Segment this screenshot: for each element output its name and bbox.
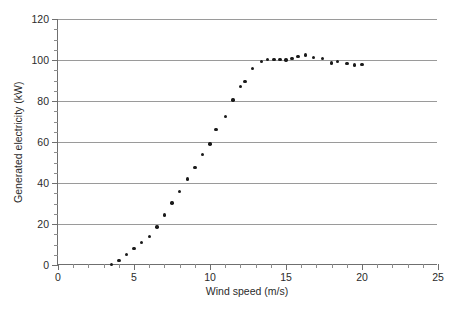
y-minor-tick bbox=[54, 132, 58, 133]
x-minor-tick bbox=[256, 264, 257, 268]
y-minor-tick bbox=[54, 70, 58, 71]
y-minor-tick bbox=[54, 234, 58, 235]
data-point bbox=[110, 263, 113, 266]
y-minor-tick bbox=[54, 163, 58, 164]
data-point bbox=[360, 63, 363, 66]
data-point bbox=[239, 85, 242, 88]
data-point bbox=[201, 153, 204, 156]
y-minor-tick bbox=[54, 173, 58, 174]
data-point bbox=[296, 55, 299, 58]
y-axis-title: Generated electricity (kW) bbox=[12, 19, 26, 265]
data-point bbox=[186, 177, 189, 180]
y-tick-label-80: 80 bbox=[37, 96, 49, 107]
y-tick-label-100: 100 bbox=[31, 55, 49, 66]
y-major-tick-120 bbox=[52, 19, 58, 20]
data-point bbox=[214, 128, 217, 131]
data-point bbox=[148, 235, 151, 238]
x-tick-label-0: 0 bbox=[55, 272, 61, 283]
data-point bbox=[231, 98, 234, 101]
x-major-tick-10 bbox=[210, 264, 211, 270]
gridline-y-100 bbox=[58, 60, 437, 61]
plot-area: 020406080100120 0510152025 bbox=[57, 19, 437, 265]
data-point bbox=[132, 247, 135, 250]
y-minor-tick bbox=[54, 152, 58, 153]
x-minor-tick bbox=[119, 264, 120, 268]
wind-power-curve-chart: Generated electricity (kW) 0204060801001… bbox=[0, 0, 457, 309]
data-point bbox=[353, 63, 356, 66]
gridline-y-20 bbox=[58, 224, 437, 225]
x-minor-tick bbox=[73, 264, 74, 268]
y-minor-tick bbox=[54, 50, 58, 51]
data-point bbox=[178, 190, 181, 193]
data-point bbox=[125, 253, 128, 256]
data-point bbox=[345, 62, 348, 65]
y-major-tick-80 bbox=[52, 101, 58, 102]
y-major-tick-20 bbox=[52, 224, 58, 225]
data-point bbox=[208, 142, 211, 145]
x-tick-label-25: 25 bbox=[432, 272, 444, 283]
data-point bbox=[272, 58, 275, 61]
data-point bbox=[278, 58, 281, 61]
gridline-y-40 bbox=[58, 183, 437, 184]
data-point bbox=[243, 80, 246, 83]
y-minor-tick bbox=[54, 255, 58, 256]
x-tick-label-5: 5 bbox=[131, 272, 137, 283]
x-minor-tick bbox=[88, 264, 89, 268]
gridline-y-80 bbox=[58, 101, 437, 102]
data-point bbox=[290, 57, 293, 60]
data-point bbox=[312, 56, 315, 59]
y-minor-tick bbox=[54, 91, 58, 92]
y-minor-tick bbox=[54, 193, 58, 194]
data-point bbox=[140, 241, 143, 244]
y-minor-tick bbox=[54, 122, 58, 123]
data-point bbox=[336, 60, 339, 63]
y-axis-title-text: Generated electricity (kW) bbox=[14, 81, 25, 202]
y-minor-tick bbox=[54, 245, 58, 246]
x-minor-tick bbox=[271, 264, 272, 268]
y-tick-label-40: 40 bbox=[37, 178, 49, 189]
x-minor-tick bbox=[240, 264, 241, 268]
y-minor-tick bbox=[54, 214, 58, 215]
x-major-tick-0 bbox=[58, 264, 59, 270]
x-minor-tick bbox=[164, 264, 165, 268]
y-major-tick-100 bbox=[52, 60, 58, 61]
y-minor-tick bbox=[54, 29, 58, 30]
y-tick-label-0: 0 bbox=[43, 260, 49, 271]
data-point bbox=[260, 60, 263, 63]
x-minor-tick bbox=[316, 264, 317, 268]
x-minor-tick bbox=[104, 264, 105, 268]
data-point bbox=[224, 115, 227, 118]
data-point bbox=[251, 67, 254, 70]
y-major-tick-40 bbox=[52, 183, 58, 184]
y-tick-label-20: 20 bbox=[37, 219, 49, 230]
x-tick-label-20: 20 bbox=[356, 272, 368, 283]
data-point bbox=[155, 225, 158, 228]
x-axis-title: Wind speed (m/s) bbox=[57, 286, 437, 297]
x-tick-label-15: 15 bbox=[280, 272, 292, 283]
y-tick-label-120: 120 bbox=[31, 14, 49, 25]
data-point bbox=[284, 58, 287, 61]
gridline-y-60 bbox=[58, 142, 437, 143]
x-minor-tick bbox=[408, 264, 409, 268]
x-major-tick-15 bbox=[286, 264, 287, 270]
y-tick-label-60: 60 bbox=[37, 137, 49, 148]
x-axis-title-text: Wind speed (m/s) bbox=[206, 285, 288, 297]
x-minor-tick bbox=[195, 264, 196, 268]
x-minor-tick bbox=[347, 264, 348, 268]
data-point bbox=[330, 61, 333, 64]
y-minor-tick bbox=[54, 204, 58, 205]
x-major-tick-20 bbox=[362, 264, 363, 270]
x-tick-label-10: 10 bbox=[204, 272, 216, 283]
gridline-y-120 bbox=[58, 19, 437, 20]
x-minor-tick bbox=[377, 264, 378, 268]
y-minor-tick bbox=[54, 111, 58, 112]
y-minor-tick bbox=[54, 81, 58, 82]
y-major-tick-60 bbox=[52, 142, 58, 143]
data-point bbox=[193, 166, 196, 169]
x-major-tick-25 bbox=[438, 264, 439, 270]
data-point bbox=[117, 259, 120, 262]
data-point bbox=[170, 201, 173, 204]
x-minor-tick bbox=[423, 264, 424, 268]
x-minor-tick bbox=[301, 264, 302, 268]
x-minor-tick bbox=[225, 264, 226, 268]
